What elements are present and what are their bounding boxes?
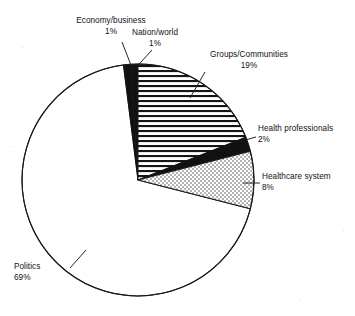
slice-label-health-professionals-name: Health professionals bbox=[258, 124, 354, 135]
slice-label-nation-world: Nation/world 1% bbox=[118, 28, 192, 49]
slice-label-healthcare-system-name: Healthcare system bbox=[262, 172, 354, 183]
slice-label-nation-world-value: 1% bbox=[118, 39, 192, 50]
slice-label-groups-communities: Groups/Communities 19% bbox=[197, 50, 301, 71]
slice-label-healthcare-system: Healthcare system 8% bbox=[262, 172, 354, 193]
slice-label-groups-communities-value: 19% bbox=[197, 61, 301, 72]
slice-label-health-professionals: Health professionals 2% bbox=[258, 124, 354, 145]
scan-speck bbox=[10, 146, 11, 147]
slice-label-healthcare-system-value: 8% bbox=[262, 183, 354, 194]
slice-label-health-professionals-value: 2% bbox=[258, 135, 354, 146]
slice-label-politics-name: Politics bbox=[14, 262, 74, 273]
slice-label-politics: Politics 69% bbox=[14, 262, 74, 283]
scan-speck bbox=[300, 300, 301, 301]
slice-label-politics-value: 69% bbox=[14, 273, 74, 284]
scan-speck bbox=[22, 47, 23, 48]
pie-chart-figure: Economy/business 1% Nation/world 1% Grou… bbox=[0, 0, 355, 316]
slice-label-economy-business-name: Economy/business bbox=[63, 16, 159, 27]
slice-label-groups-communities-name: Groups/Communities bbox=[197, 50, 301, 61]
slice-label-nation-world-name: Nation/world bbox=[118, 28, 192, 39]
scan-speck bbox=[343, 230, 344, 231]
